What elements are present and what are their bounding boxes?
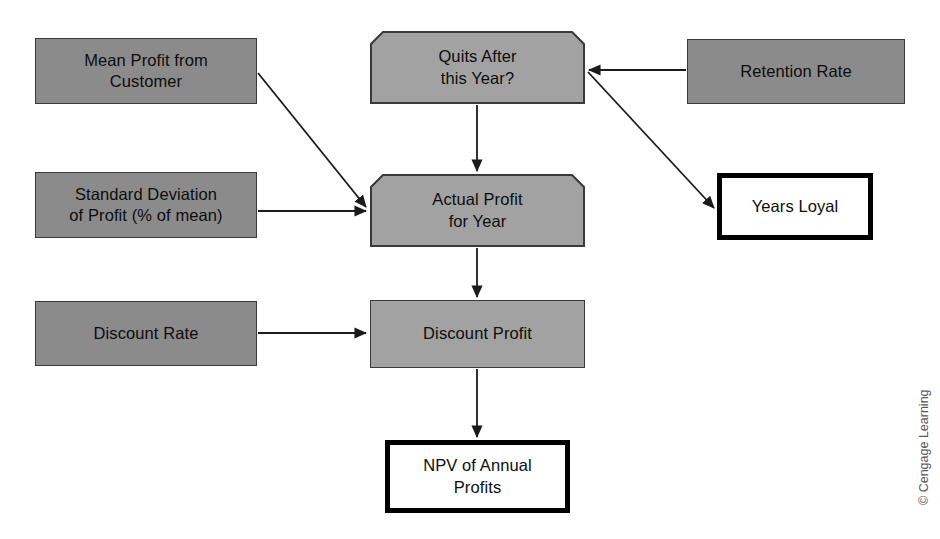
node-mean-profit-from-customer[interactable]: Mean Profit from Customer <box>35 38 257 104</box>
node-standard-deviation-of-profit[interactable]: Standard Deviation of Profit (% of mean) <box>35 172 257 238</box>
node-label: NPV of Annual Profits <box>417 455 538 497</box>
node-label: Discount Rate <box>88 323 205 344</box>
node-label: Mean Profit from Customer <box>78 50 214 92</box>
node-actual-profit-for-year[interactable]: Actual Profit for Year <box>370 174 585 247</box>
node-discount-profit[interactable]: Discount Profit <box>370 300 585 368</box>
node-label: Retention Rate <box>734 61 857 82</box>
node-label: Quits After this Year? <box>432 46 522 88</box>
diagram-canvas: Mean Profit from Customer Quits After th… <box>0 0 940 539</box>
node-label: Standard Deviation of Profit (% of mean) <box>63 184 228 226</box>
edge-mean-profit-to-actual-profit <box>258 73 366 207</box>
node-label: Years Loyal <box>746 196 845 217</box>
node-retention-rate[interactable]: Retention Rate <box>687 39 905 104</box>
node-years-loyal[interactable]: Years Loyal <box>717 173 873 240</box>
node-quits-after-this-year[interactable]: Quits After this Year? <box>370 31 585 104</box>
copyright-credit: © Cengage Learning <box>917 389 931 505</box>
node-npv-of-annual-profits[interactable]: NPV of Annual Profits <box>385 440 570 513</box>
node-discount-rate[interactable]: Discount Rate <box>35 301 257 366</box>
node-label: Actual Profit for Year <box>426 189 528 231</box>
node-label: Discount Profit <box>417 323 538 344</box>
